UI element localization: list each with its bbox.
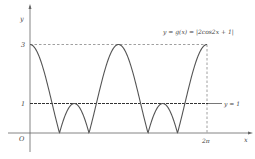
ref-line-label: y = 1: [223, 100, 240, 108]
tick-label-3: 3: [21, 41, 25, 49]
y-axis-arrow-icon: [29, 4, 32, 9]
tick-label-2pi: 2π: [201, 137, 211, 144]
x-axis-arrow-icon: [248, 132, 253, 135]
y-axis-label: y: [19, 15, 24, 23]
tick-label-1: 1: [21, 100, 25, 108]
x-axis-label: x: [244, 136, 248, 144]
curve-g: [30, 45, 207, 133]
function-graph: y 3 1 O 2π x y = g(x) = |2cos2x + 1| y =…: [0, 0, 255, 159]
function-label: y = g(x) = |2cos2x + 1|: [162, 28, 234, 36]
origin-label: O: [19, 135, 25, 143]
